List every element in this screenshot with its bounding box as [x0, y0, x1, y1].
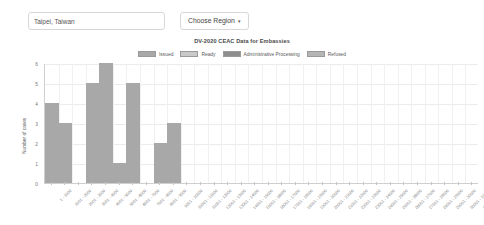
gridline-vertical: [221, 64, 222, 183]
x-tick-mark: [471, 182, 472, 185]
chart-legend: IssuedReadyAdministrative ProcessingRefu…: [0, 51, 484, 57]
y-tick-label: 1: [26, 162, 38, 167]
gridline-vertical: [411, 64, 412, 183]
choose-region-label: Choose Region: [188, 17, 235, 24]
x-tick-mark: [390, 182, 391, 185]
x-tick-mark: [363, 182, 364, 185]
legend-item[interactable]: Administrative Processing: [223, 51, 300, 57]
x-tick-mark: [146, 182, 147, 185]
gridline-vertical: [384, 64, 385, 183]
x-tick-mark: [254, 182, 255, 185]
y-tick-label: 3: [26, 122, 38, 127]
chart-bar[interactable]: [45, 103, 59, 183]
x-tick-mark: [281, 182, 282, 185]
gridline-vertical: [262, 64, 263, 183]
x-tick-mark: [78, 182, 79, 185]
gridline-vertical: [140, 64, 141, 183]
gridline-vertical: [371, 64, 372, 183]
legend-label: Issued: [159, 52, 173, 57]
legend-swatch-icon: [180, 51, 198, 57]
legend-item[interactable]: Issued: [138, 51, 173, 57]
x-tick-mark: [159, 182, 160, 185]
gridline-vertical: [452, 64, 453, 183]
y-tick-label: 5: [26, 82, 38, 87]
x-tick-mark: [119, 182, 120, 185]
y-tick-label: 0: [26, 182, 38, 187]
legend-swatch-icon: [138, 51, 156, 57]
plot-wrapper: Number of cases 0123456 1 - 10001001 - 2…: [0, 62, 484, 225]
gridline-vertical: [303, 64, 304, 183]
x-tick-mark: [376, 182, 377, 185]
gridline-vertical: [289, 64, 290, 183]
chevron-down-icon: ▾: [238, 13, 241, 29]
gridline-vertical: [181, 64, 182, 183]
x-tick-label: 1 - 1000: [58, 188, 72, 202]
gridline-vertical: [208, 64, 209, 183]
legend-swatch-icon: [223, 51, 241, 57]
y-tick-label: 4: [26, 102, 38, 107]
legend-item[interactable]: Refused: [307, 51, 346, 57]
chart-bar[interactable]: [86, 83, 100, 183]
chart-bar[interactable]: [59, 123, 73, 183]
x-tick-mark: [308, 182, 309, 185]
x-tick-mark: [417, 182, 418, 185]
gridline-vertical: [316, 64, 317, 183]
gridline-vertical: [357, 64, 358, 183]
x-tick-mark: [105, 182, 106, 185]
ceac-chart-page: Choose Region▾ DV-2020 CEAC Data for Emb…: [0, 0, 484, 225]
legend-item[interactable]: Ready: [180, 51, 215, 57]
y-tick-label: 2: [26, 142, 38, 147]
y-tick-label: 6: [26, 62, 38, 67]
x-tick-mark: [51, 182, 52, 185]
chart-bar[interactable]: [126, 83, 140, 183]
chart-bar[interactable]: [154, 143, 168, 183]
x-tick-mark: [132, 182, 133, 185]
x-tick-mark: [458, 182, 459, 185]
x-tick-mark: [295, 182, 296, 185]
x-tick-mark: [241, 182, 242, 185]
gridline-vertical: [72, 64, 73, 183]
x-tick-mark: [336, 182, 337, 185]
chart-bar[interactable]: [167, 123, 181, 183]
chart-bar[interactable]: [113, 163, 127, 183]
gridline-vertical: [425, 64, 426, 183]
choose-region-button[interactable]: Choose Region▾: [180, 12, 249, 30]
gridline-vertical: [438, 64, 439, 183]
gridline-vertical: [276, 64, 277, 183]
plot-area: [44, 64, 478, 184]
legend-label: Ready: [201, 52, 215, 57]
chart-bar[interactable]: [99, 63, 113, 183]
x-tick-mark: [186, 182, 187, 185]
x-tick-mark: [403, 182, 404, 185]
x-tick-mark: [431, 182, 432, 185]
legend-label: Administrative Processing: [244, 52, 300, 57]
x-tick-mark: [227, 182, 228, 185]
x-tick-mark: [64, 182, 65, 185]
x-tick-mark: [268, 182, 269, 185]
gridline-vertical: [465, 64, 466, 183]
x-tick-mark: [349, 182, 350, 185]
x-tick-mark: [91, 182, 92, 185]
x-tick-mark: [214, 182, 215, 185]
gridline-vertical: [330, 64, 331, 183]
x-tick-mark: [200, 182, 201, 185]
embassy-search-input[interactable]: [28, 12, 165, 30]
gridline-vertical: [343, 64, 344, 183]
x-tick-mark: [173, 182, 174, 185]
x-tick-mark: [322, 182, 323, 185]
gridline-vertical: [248, 64, 249, 183]
gridline-vertical: [194, 64, 195, 183]
legend-label: Refused: [328, 52, 346, 57]
legend-swatch-icon: [307, 51, 325, 57]
controls-bar: Choose Region▾: [0, 12, 484, 36]
chart-title: DV-2020 CEAC Data for Embassies: [0, 38, 484, 44]
gridline-vertical: [398, 64, 399, 183]
gridline-vertical: [235, 64, 236, 183]
x-tick-mark: [444, 182, 445, 185]
